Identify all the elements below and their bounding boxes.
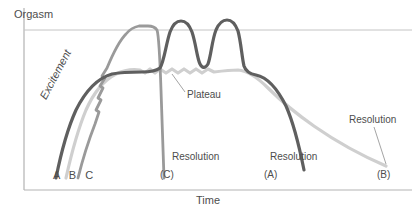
orgasm-axis-label: Orgasm	[14, 9, 53, 20]
curve-b	[66, 69, 386, 178]
x-tick-end-b: (B)	[377, 170, 390, 180]
resolution-label-b: Resolution	[349, 115, 396, 125]
x-tick-end-c: (C)	[160, 170, 174, 180]
resolution-b-leader-line	[374, 127, 386, 164]
plateau-leader-line	[172, 74, 185, 92]
sexual-response-cycle-chart: Orgasm Excitement Plateau Resolution Res…	[0, 0, 416, 213]
x-tick-end-a: (A)	[264, 170, 277, 180]
chart-canvas	[0, 0, 416, 213]
resolution-label-a: Resolution	[270, 152, 317, 162]
x-axis-title: Time	[0, 195, 416, 206]
resolution-label-c: Resolution	[172, 152, 219, 162]
x-tick-start-abc: A B C	[53, 170, 96, 181]
plateau-phase-label: Plateau	[187, 90, 221, 100]
